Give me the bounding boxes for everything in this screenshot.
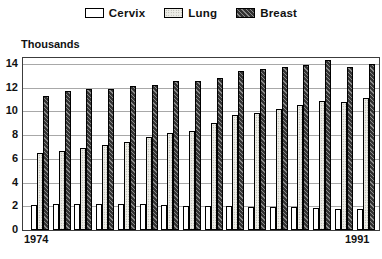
y-tick-label-6: 6 — [0, 152, 18, 164]
legend-label: Breast — [260, 7, 297, 19]
bar-breast-0 — [43, 96, 49, 230]
y-tick-label-10: 10 — [0, 104, 18, 116]
cancer-deaths-bar-chart: CervixLungBreast Thousands 02468101214 1… — [0, 0, 382, 259]
x-tick-last-year: 1991 — [345, 233, 369, 245]
y-tick-label-12: 12 — [0, 81, 18, 93]
bar-breast-6 — [173, 81, 179, 230]
bar-breast-2 — [86, 89, 92, 230]
bar-breast-5 — [152, 85, 158, 230]
legend: CervixLungBreast — [0, 7, 382, 19]
bar-breast-13 — [325, 60, 331, 230]
plot-area — [22, 57, 380, 231]
bar-breast-9 — [238, 71, 244, 230]
bar-breast-15 — [369, 64, 375, 230]
legend-item-lung: Lung — [164, 7, 217, 19]
bar-breast-10 — [260, 69, 266, 230]
bar-breast-11 — [282, 67, 288, 230]
y-tick-label-2: 2 — [0, 199, 18, 211]
y-tick-label-4: 4 — [0, 176, 18, 188]
bar-breast-14 — [347, 67, 353, 230]
x-tick-first-year: 1974 — [24, 233, 48, 245]
y-tick-label-0: 0 — [0, 223, 18, 235]
bar-breast-1 — [65, 91, 71, 230]
y-tick-label-14: 14 — [0, 57, 18, 69]
bar-breast-7 — [195, 81, 201, 230]
legend-swatch-breast — [236, 8, 255, 18]
y-tick-label-8: 8 — [0, 128, 18, 140]
bar-breast-8 — [217, 78, 223, 230]
legend-swatch-lung — [164, 8, 183, 18]
legend-label: Lung — [188, 7, 217, 19]
bar-breast-4 — [130, 86, 136, 230]
legend-label: Cervix — [109, 7, 145, 19]
legend-item-breast: Breast — [236, 7, 297, 19]
legend-swatch-cervix — [85, 8, 104, 18]
bar-breast-12 — [303, 65, 309, 230]
y-axis-title: Thousands — [21, 38, 80, 50]
bar-breast-3 — [108, 89, 114, 230]
legend-item-cervix: Cervix — [85, 7, 145, 19]
